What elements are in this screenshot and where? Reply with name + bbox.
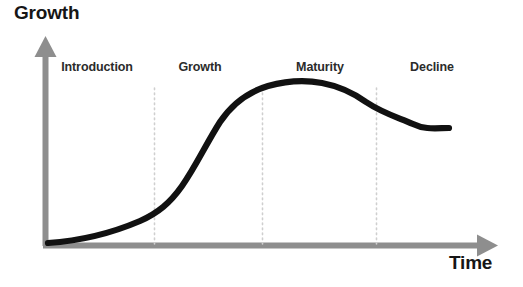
- stage-label-decline: Decline: [410, 60, 454, 74]
- stage-dividers: [155, 88, 377, 244]
- stage-label-maturity: Maturity: [296, 60, 344, 74]
- stage-label-introduction: Introduction: [61, 60, 133, 74]
- stage-label-growth: Growth: [178, 60, 221, 74]
- x-axis: [43, 235, 498, 257]
- y-axis-title: Growth: [14, 2, 79, 24]
- chart-plot-area: [0, 0, 523, 287]
- life-cycle-curve: [48, 81, 449, 243]
- product-life-cycle-chart: Growth Time Introduction Growth Maturity…: [0, 0, 523, 287]
- y-axis-arrowhead-icon: [35, 36, 57, 57]
- y-axis: [35, 36, 57, 246]
- x-axis-title: Time: [449, 252, 492, 274]
